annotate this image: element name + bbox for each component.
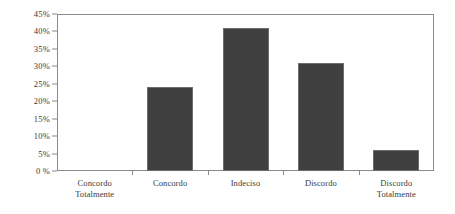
x-axis-category-label-line: Discordo bbox=[359, 178, 434, 189]
x-axis-category-label: ConcordoTotalmente bbox=[57, 178, 132, 200]
x-axis-tick-mark bbox=[208, 171, 209, 175]
x-axis-category-label-line: Discordo bbox=[283, 178, 358, 189]
bar-chart: 0 %5%10%15%20%25%30%35%40%45% ConcordoTo… bbox=[0, 0, 455, 214]
y-axis-tick-label: 10% bbox=[0, 132, 50, 141]
y-axis-tick-label: 45% bbox=[0, 10, 50, 19]
x-axis-category-label-line: Indeciso bbox=[208, 178, 283, 189]
x-axis-tick-mark bbox=[132, 171, 133, 175]
x-axis-category-label-line: Concordo bbox=[132, 178, 207, 189]
y-axis-tick-label: 5% bbox=[0, 149, 50, 158]
bar bbox=[147, 87, 193, 171]
x-axis-category-label-line: Concordo bbox=[57, 178, 132, 189]
x-axis: ConcordoTotalmenteConcordoIndecisoDiscor… bbox=[57, 178, 434, 212]
y-axis-tick-label: 15% bbox=[0, 114, 50, 123]
y-axis: 0 %5%10%15%20%25%30%35%40%45% bbox=[0, 14, 50, 171]
y-axis-tick-label: 40% bbox=[0, 27, 50, 36]
x-axis-category-label: Discordo bbox=[283, 178, 358, 189]
x-axis-category-label: Indeciso bbox=[208, 178, 283, 189]
y-axis-tick-label: 30% bbox=[0, 62, 50, 71]
y-axis-tick-label: 35% bbox=[0, 45, 50, 54]
bar bbox=[298, 63, 344, 171]
x-axis-tick-marks bbox=[57, 171, 434, 176]
y-axis-tick-label: 20% bbox=[0, 97, 50, 106]
x-axis-category-label: DiscordoTotalmente bbox=[359, 178, 434, 200]
bar bbox=[223, 28, 269, 171]
x-axis-category-label-line: Totalmente bbox=[57, 189, 132, 200]
x-axis-tick-mark bbox=[283, 171, 284, 175]
bar bbox=[373, 150, 419, 171]
x-axis-category-label: Concordo bbox=[132, 178, 207, 189]
x-axis-tick-mark bbox=[359, 171, 360, 175]
y-axis-tick-label: 0 % bbox=[0, 167, 50, 176]
x-axis-category-label-line: Totalmente bbox=[359, 189, 434, 200]
bar-series bbox=[57, 14, 434, 171]
y-axis-tick-label: 25% bbox=[0, 80, 50, 89]
